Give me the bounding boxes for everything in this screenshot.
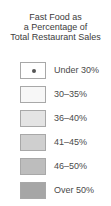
legend-label: Over 50% [54, 185, 94, 196]
legend-label: 36–40% [54, 113, 87, 124]
legend-swatch [20, 182, 46, 199]
legend-swatch [20, 158, 46, 175]
legend-title-line-2: a Percentage of [0, 22, 111, 32]
legend-swatch [20, 62, 46, 79]
legend-label: 41–45% [54, 137, 87, 148]
legend-label: 46–50% [54, 161, 87, 172]
legend-swatch [20, 134, 46, 151]
legend-title-line-1: Fast Food as [0, 12, 111, 22]
legend-item-36-40: 36–40% [20, 110, 110, 128]
legend-title-line-3: Total Restaurant Sales [0, 32, 111, 42]
legend-swatch [20, 86, 46, 103]
legend-swatch [20, 110, 46, 127]
legend-item-41-45: 41–45% [20, 134, 110, 152]
legend-item-30-35: 30–35% [20, 86, 110, 104]
legend-item-under-30: Under 30% [20, 62, 110, 80]
dot-marker-icon [32, 69, 36, 73]
legend-item-46-50: 46–50% [20, 158, 110, 176]
legend-label: Under 30% [54, 65, 99, 76]
legend-label: 30–35% [54, 89, 87, 100]
legend-item-over-50: Over 50% [20, 182, 110, 200]
legend-title: Fast Food as a Percentage of Total Resta… [0, 12, 111, 42]
